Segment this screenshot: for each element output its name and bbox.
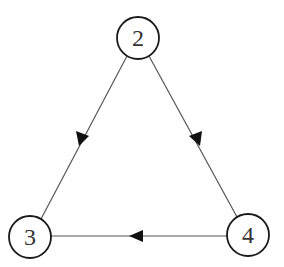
edges bbox=[41, 56, 237, 242]
graph-svg: 2 3 4 bbox=[0, 0, 284, 267]
arrowhead-2-to-3-icon bbox=[76, 131, 89, 146]
node-4-label: 4 bbox=[242, 222, 254, 248]
node-2-label: 2 bbox=[132, 25, 144, 51]
node-3: 3 bbox=[9, 216, 51, 258]
node-3-label: 3 bbox=[24, 224, 36, 250]
node-2: 2 bbox=[117, 17, 159, 59]
node-4: 4 bbox=[227, 214, 269, 256]
graph-canvas: 2 3 4 bbox=[0, 0, 284, 267]
arrowhead-4-to-3-icon bbox=[129, 230, 143, 242]
